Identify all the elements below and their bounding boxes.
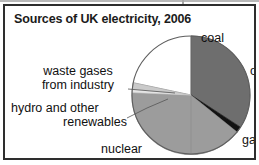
pie-label-hydro-line2: renewables (11, 115, 133, 129)
pie-label-waste-gases: waste gases from industry (26, 64, 130, 92)
chart-figure-frame: Sources of UK electricity, 2006 (3, 4, 256, 160)
pie-label-coal: coal (201, 31, 224, 45)
pie-label-hydro-line1: hydro and other (11, 101, 99, 115)
figure-screenshot: Sources of UK electricity, 2006 (0, 0, 259, 165)
pie-label-oil: o (250, 64, 256, 78)
pie-label-nuclear: nuclear (101, 142, 142, 156)
pie-label-waste-gases-line1: waste gases (43, 64, 112, 78)
top-rule-divider (0, 0, 259, 2)
pie-chart: coal o ga nuclear waste gases from indus… (5, 6, 256, 160)
pie-label-waste-gases-line2: from industry (42, 78, 114, 92)
pie-label-hydro: hydro and other renewables (11, 101, 133, 129)
pie-label-gas: ga (242, 133, 256, 147)
